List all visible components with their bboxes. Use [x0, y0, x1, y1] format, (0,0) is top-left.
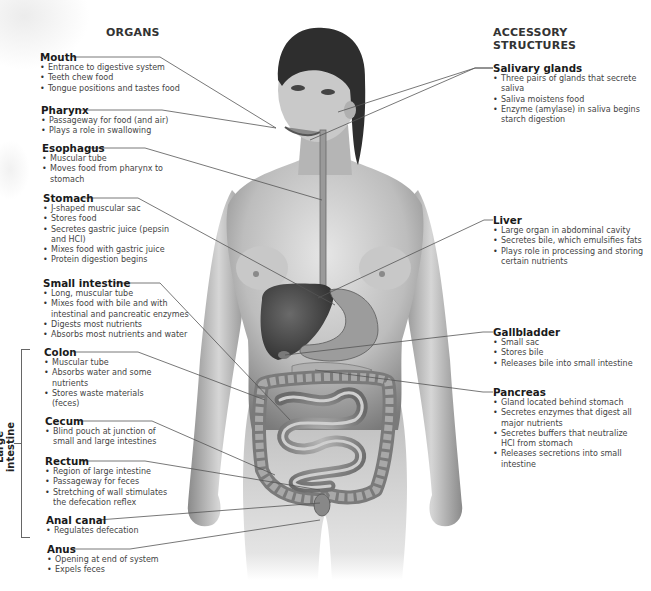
bullet: Passageway for feces: [45, 477, 170, 487]
bullet: Secretes bile, which emulsifies fats: [493, 236, 648, 246]
label-title: Pancreas: [493, 386, 643, 398]
label-title: Cecum: [45, 415, 160, 427]
digestive-system-diagram: ORGANS ACCESSORY STRUCTURES Large intest…: [0, 0, 651, 591]
label-title: Rectum: [45, 455, 170, 467]
bullet: Secretes buffers that neutralize HCl fro…: [493, 429, 643, 450]
label-pancreas: Pancreas Gland located behind stomach Se…: [493, 386, 643, 470]
rectum-drawing: [314, 494, 330, 516]
label-title: Colon: [44, 346, 154, 358]
bullet: Long, muscular tube: [43, 289, 193, 299]
label-title: Liver: [493, 214, 648, 226]
bullet: Stores food: [43, 214, 175, 224]
bullet: Muscular tube: [42, 154, 164, 164]
bullet: Tongue positions and tastes food: [40, 84, 220, 94]
large-intestine-bracket: [21, 349, 30, 538]
bullet: Absorbs most nutrients and water: [43, 330, 193, 340]
bullet: Digests most nutrients: [43, 320, 193, 330]
label-title: Gallbladder: [493, 326, 648, 338]
bullet: Regulates defecation: [46, 526, 186, 536]
label-anal-canal: Anal canal Regulates defecation: [46, 514, 186, 536]
label-title: Anal canal: [46, 514, 186, 526]
bullet: Small sac: [493, 338, 648, 348]
bullet: J-shaped muscular sac: [43, 204, 175, 214]
bullet: Protein digestion begins: [43, 255, 175, 265]
bullet: Secretes gastric juice (pepsin and HCl): [43, 225, 175, 246]
bullet: Three pairs of glands that secrete saliv…: [493, 74, 643, 95]
bullet: Saliva moistens food: [493, 95, 643, 105]
organs-heading: ORGANS: [106, 26, 160, 39]
label-title: Mouth: [40, 51, 220, 63]
label-cecum: Cecum Blind pouch at junction of small a…: [45, 415, 160, 448]
bullet: Releases secretions into small intestine: [493, 449, 643, 470]
label-title: Stomach: [43, 192, 175, 204]
label-colon: Colon Muscular tube Absorbs water and so…: [44, 346, 154, 409]
label-title: Small intestine: [43, 277, 193, 289]
nipple-right: [379, 271, 385, 277]
bullet: Secretes enzymes that digest all major n…: [493, 408, 643, 429]
label-pharynx: Pharynx Passageway for food (and air) Pl…: [41, 104, 221, 137]
bullet: Muscular tube: [44, 358, 154, 368]
label-anus: Anus Opening at end of system Expels fec…: [47, 543, 197, 576]
bullet: Large organ in abdominal cavity: [493, 226, 648, 236]
label-title: Esophagus: [42, 142, 164, 154]
bullet: Entrance to digestive system: [40, 63, 220, 73]
bullet: Opening at end of system: [47, 555, 197, 565]
breast-left: [236, 246, 288, 290]
bullet: Expels feces: [47, 565, 197, 575]
bullet: Absorbs water and some nutrients: [44, 368, 154, 389]
ear: [344, 101, 356, 119]
label-stomach: Stomach J-shaped muscular sac Stores foo…: [43, 192, 175, 266]
label-title: Anus: [47, 543, 197, 555]
bullet: Releases bile into small intestine: [493, 359, 648, 369]
bullet: Stores waste materials (feces): [44, 389, 154, 410]
bullet: Moves food from pharynx to stomach: [42, 164, 164, 185]
bullet: Plays role in processing and storing cer…: [493, 247, 648, 268]
bullet: Gland located behind stomach: [493, 398, 643, 408]
bullet: Stretching of wall stimulates the defeca…: [45, 488, 170, 509]
label-gallbladder: Gallbladder Small sac Stores bile Releas…: [493, 326, 648, 369]
bullet: Stores bile: [493, 348, 648, 358]
large-intestine-label: Large intestine: [0, 407, 16, 487]
eye-right: [321, 89, 335, 95]
label-salivary-glands: Salivary glands Three pairs of glands th…: [493, 62, 643, 125]
label-liver: Liver Large organ in abdominal cavity Se…: [493, 214, 648, 267]
bullet: Enzyme (amylase) in saliva begins starch…: [493, 105, 643, 126]
bullet: Mixes food with gastric juice: [43, 245, 175, 255]
breast-right: [359, 246, 411, 290]
label-title: Pharynx: [41, 104, 221, 116]
label-small-intestine: Small intestine Long, muscular tube Mixe…: [43, 277, 193, 340]
label-title: Salivary glands: [493, 62, 643, 74]
esophagus-drawing: [320, 130, 326, 290]
label-esophagus: Esophagus Muscular tube Moves food from …: [42, 142, 164, 185]
eye-left: [291, 85, 305, 91]
bullet: Region of large intestine: [45, 467, 170, 477]
label-rectum: Rectum Region of large intestine Passage…: [45, 455, 170, 508]
nipple-left: [253, 271, 259, 277]
bullet: Mixes food with bile and with intestinal…: [43, 299, 193, 320]
label-mouth: Mouth Entrance to digestive system Teeth…: [40, 51, 220, 94]
bullet: Blind pouch at junction of small and lar…: [45, 427, 160, 448]
bullet: Teeth chew food: [40, 73, 220, 83]
accessory-structures-heading: ACCESSORY STRUCTURES: [493, 26, 651, 52]
bullet: Passageway for food (and air): [41, 116, 221, 126]
bullet: Plays a role in swallowing: [41, 126, 221, 136]
